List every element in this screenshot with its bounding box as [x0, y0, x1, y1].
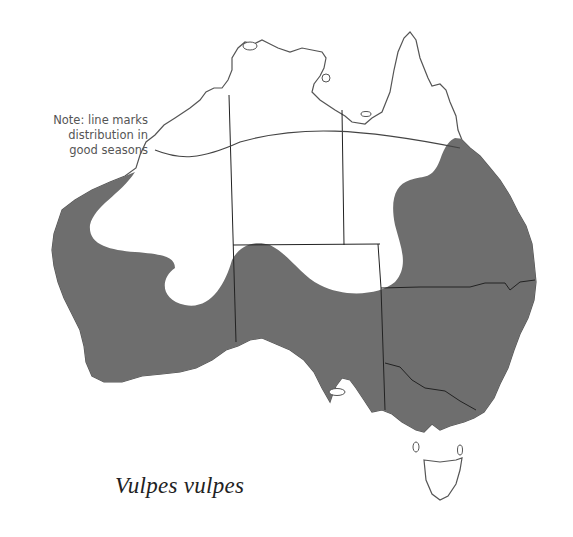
distribution-note: Note: line marks distribution in good se… — [8, 113, 148, 158]
groote-eylandt — [322, 74, 330, 82]
note-line-1: Note: line marks — [8, 113, 148, 128]
kangaroo-island — [329, 389, 345, 396]
australia-distribution-map — [0, 0, 573, 537]
flinders-island — [458, 445, 463, 455]
note-line-2: distribution in — [8, 128, 148, 143]
species-name: Vulpes vulpes — [115, 473, 244, 499]
tasmania — [424, 458, 462, 500]
king-island — [413, 442, 419, 452]
note-line-3: good seasons — [8, 143, 148, 158]
melville-island — [243, 42, 257, 50]
mornington-island — [361, 112, 371, 117]
